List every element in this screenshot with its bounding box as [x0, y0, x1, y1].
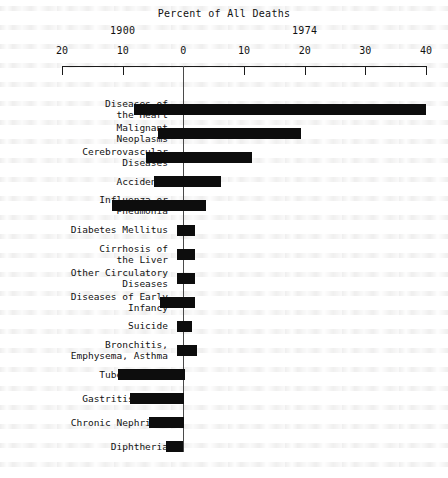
- bar-1974: [183, 417, 184, 428]
- bar-1974: [183, 297, 195, 308]
- bar-chart: Percent of All Deaths 19001974 201001020…: [0, 0, 448, 478]
- tick-mark-4: [305, 66, 306, 75]
- bar-1974: [183, 225, 195, 236]
- category-label: Diseases of Early Infancy: [8, 291, 168, 313]
- bar-1974: [183, 321, 192, 332]
- axis-right-cap: [426, 66, 427, 75]
- era-label-1974: 1974: [275, 25, 335, 36]
- tick-mark-1: [123, 66, 124, 75]
- tick-mark-3: [244, 66, 245, 75]
- bar-1900: [149, 417, 184, 428]
- category-label: Suicide: [8, 320, 168, 331]
- tick-label-3: 10: [229, 45, 259, 56]
- bar-1900: [146, 152, 184, 163]
- bar-1900: [166, 441, 184, 452]
- bar-1974: [183, 345, 197, 356]
- bar-1900: [158, 128, 183, 139]
- bar-1900: [154, 176, 183, 187]
- chart-title: Percent of All Deaths: [0, 8, 448, 19]
- bar-1900: [134, 104, 184, 115]
- bar-1900: [112, 200, 183, 211]
- bar-1974: [183, 176, 221, 187]
- category-label: Accidents: [8, 176, 168, 187]
- bar-1900: [130, 393, 183, 404]
- bar-1974: [183, 152, 252, 163]
- category-label: Diabetes Mellitus: [8, 224, 168, 235]
- bar-1900: [160, 297, 183, 308]
- bar-1900: [118, 369, 183, 380]
- category-label: Bronchitis, Emphysema, Asthma: [8, 339, 168, 361]
- tick-label-4: 20: [290, 45, 320, 56]
- tick-mark-5: [365, 66, 366, 75]
- era-label-1900: 1900: [93, 25, 153, 36]
- tick-label-2: 0: [168, 45, 198, 56]
- bar-1974: [183, 393, 184, 404]
- tick-label-6: 40: [411, 45, 441, 56]
- tick-label-1: 10: [108, 45, 138, 56]
- bar-1974: [183, 104, 426, 115]
- category-label: Diphtheria: [8, 441, 168, 452]
- category-label: Other Circulatory Diseases: [8, 267, 168, 289]
- category-label: Cirrhosis of the Liver: [8, 243, 168, 265]
- bar-1974: [183, 369, 184, 380]
- axis-left-cap: [62, 66, 63, 75]
- category-label: Chronic Nephritis: [8, 417, 168, 428]
- category-label: Cerebrovascular Diseases: [8, 146, 168, 168]
- tick-label-5: 30: [350, 45, 380, 56]
- bar-1974: [183, 200, 206, 211]
- category-label: Malignant Neoplasms: [8, 122, 168, 144]
- bar-1974: [183, 128, 301, 139]
- bar-1974: [183, 249, 195, 260]
- bar-1974: [183, 273, 195, 284]
- tick-label-0: 20: [47, 45, 77, 56]
